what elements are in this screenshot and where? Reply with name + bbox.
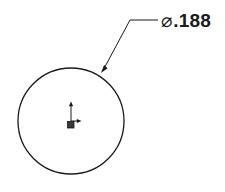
origin-x-arrowhead-icon [77,119,82,123]
diameter-value-text: .188 [173,10,211,31]
leader-line-diagonal[interactable] [104,20,131,70]
origin-y-arrowhead-icon [69,102,73,107]
origin-point-square-icon [68,122,75,129]
leader-arrowhead-icon [101,65,108,73]
diameter-symbol-icon: ⌀ [161,10,172,31]
diameter-dimension-label[interactable]: ⌀.188 [161,11,211,30]
origin-triad-marker[interactable] [68,102,82,129]
